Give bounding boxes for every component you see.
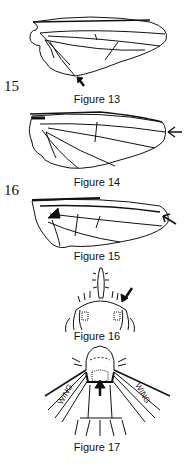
caption-figure-17: Figure 17 xyxy=(0,441,194,453)
caption-figure-13: Figure 13 xyxy=(0,93,194,105)
caption-figure-14: Figure 14 xyxy=(0,176,194,188)
figure-plate: WING WING xyxy=(0,0,194,466)
caption-figure-16: Figure 16 xyxy=(0,330,194,342)
wing-label-left: WING xyxy=(56,383,75,406)
wing-figure-14 xyxy=(29,112,165,168)
wing-figure-15 xyxy=(32,198,168,248)
arrow-icon-figure-13 xyxy=(77,77,84,86)
side-number-16: 16 xyxy=(4,182,19,199)
arrow-icon-figure-15 xyxy=(163,214,176,224)
arrow-icon-figure-14 xyxy=(168,127,182,137)
arrow-icon-figure-16 xyxy=(121,288,132,302)
wing-figure-13 xyxy=(30,17,167,76)
wing-label-right: WING xyxy=(133,382,152,405)
caption-figure-15: Figure 15 xyxy=(0,250,194,262)
